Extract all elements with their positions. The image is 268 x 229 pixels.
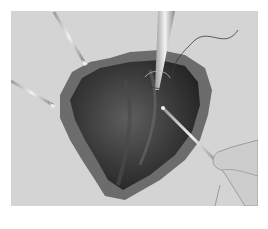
surgical-illustration	[11, 11, 258, 206]
illustration-panel	[11, 11, 258, 206]
probe-tip	[161, 106, 165, 110]
